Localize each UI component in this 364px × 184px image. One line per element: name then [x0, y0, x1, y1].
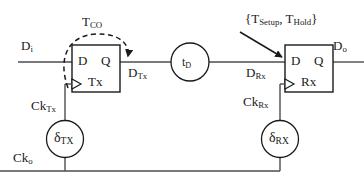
label-rx-ff-q-pin: Q	[314, 54, 323, 67]
label-rx-clock-delay: δRX	[269, 131, 289, 145]
label-tx-ff-name: Tx	[88, 75, 102, 88]
setup-hold-leader-line	[240, 32, 282, 57]
label-clock-in: Cko	[13, 151, 33, 164]
label-clock-rx: CkRx	[243, 95, 268, 108]
label-clock-tx: CkTx	[31, 99, 56, 112]
label-rx-ff-name: Rx	[301, 75, 316, 88]
timing-diagram-canvas: Di TCO D Q Tx DTx tD {TSetup, THold} DRx…	[0, 0, 364, 184]
label-rx-ff-d-pin: D	[291, 54, 300, 67]
label-setup-hold: {TSetup, THold}	[245, 12, 317, 25]
diagram-vector-layer	[0, 0, 364, 184]
label-data-out: Do	[333, 39, 347, 52]
label-data-rx: DRx	[246, 66, 266, 79]
label-tx-clock-delay: δTX	[54, 131, 73, 145]
label-data-tx: DTx	[128, 66, 147, 79]
label-tx-ff-d-pin: D	[78, 54, 87, 67]
label-delay-line: tD	[182, 56, 191, 68]
label-data-in: Di	[21, 39, 33, 52]
label-clock-to-out: TCO	[82, 15, 102, 28]
label-tx-ff-q-pin: Q	[101, 54, 110, 67]
